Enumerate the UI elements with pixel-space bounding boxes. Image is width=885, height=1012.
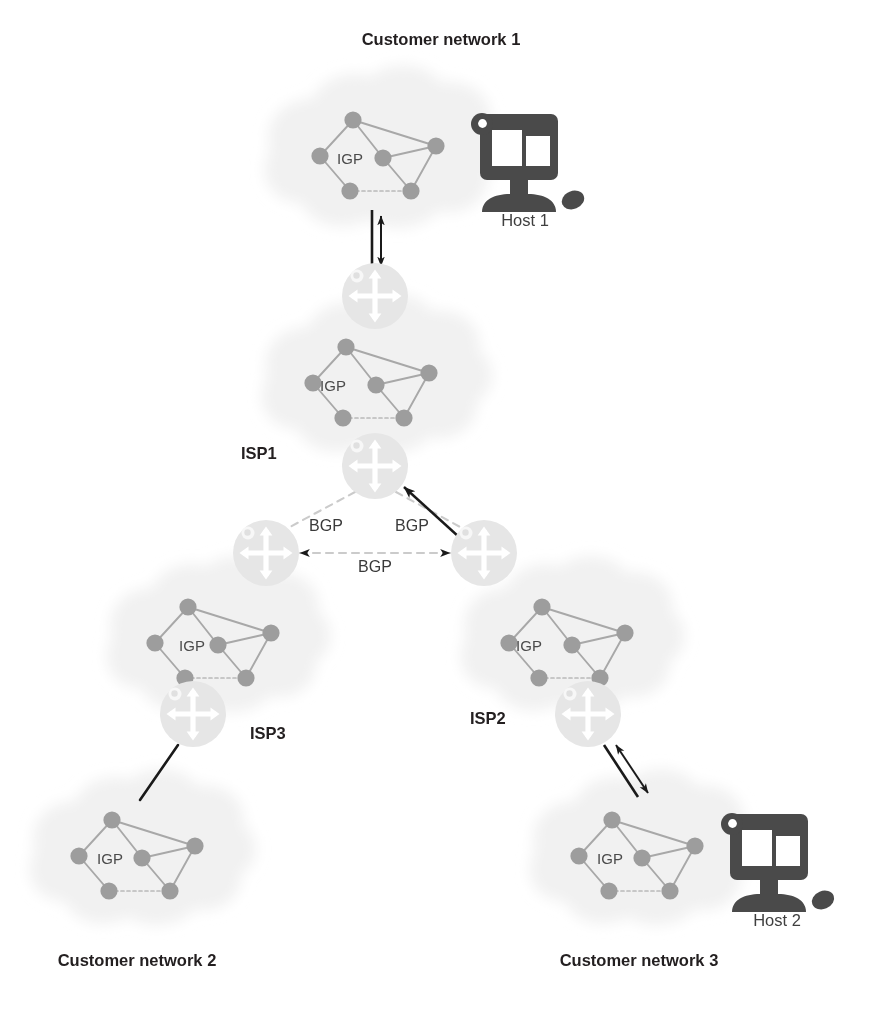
isp2-border-router[interactable] xyxy=(451,520,517,586)
isp3-cloud xyxy=(107,556,331,712)
customer-network-3-cloud xyxy=(530,769,756,925)
isp2-label: ISP2 xyxy=(470,709,506,727)
cloud-layer xyxy=(30,66,756,926)
customer-network-2-cloud xyxy=(30,769,256,925)
isp3-label: ISP3 xyxy=(250,724,286,742)
isp1-border-router[interactable] xyxy=(342,433,408,499)
bgp-label-right: BGP xyxy=(395,517,429,534)
bgp-label-bottom: BGP xyxy=(358,558,392,575)
customer-network-3-title: Customer network 3 xyxy=(560,951,719,969)
bgp-label-left: BGP xyxy=(309,517,343,534)
isp3-edge-router[interactable] xyxy=(160,681,226,747)
network-topology-svg: Customer network 1 Customer network 2 Cu… xyxy=(0,0,885,1012)
customer-network-2-title: Customer network 2 xyxy=(58,951,217,969)
igp-label-customer-network-2: IGP xyxy=(97,850,123,867)
diagram-canvas: Customer network 1 Customer network 2 Cu… xyxy=(0,0,885,1012)
customer-network-1-cloud xyxy=(265,66,504,228)
isp1-top-router[interactable] xyxy=(342,263,408,329)
igp-label-isp1: IGP xyxy=(320,377,346,394)
host-1-computer[interactable] xyxy=(471,113,587,213)
host-2-label: Host 2 xyxy=(753,911,801,929)
isp2-edge-router[interactable] xyxy=(555,681,621,747)
isp3-border-router[interactable] xyxy=(233,520,299,586)
customer-network-1-title: Customer network 1 xyxy=(362,30,521,48)
igp-label-customer-network-1: IGP xyxy=(337,150,363,167)
host-2-computer[interactable] xyxy=(721,813,837,913)
host-1-label: Host 1 xyxy=(501,211,549,229)
isp1-label: ISP1 xyxy=(241,444,277,462)
igp-label-customer-network-3: IGP xyxy=(597,850,623,867)
igp-label-isp3: IGP xyxy=(179,637,205,654)
igp-label-isp2: IGP xyxy=(516,637,542,654)
